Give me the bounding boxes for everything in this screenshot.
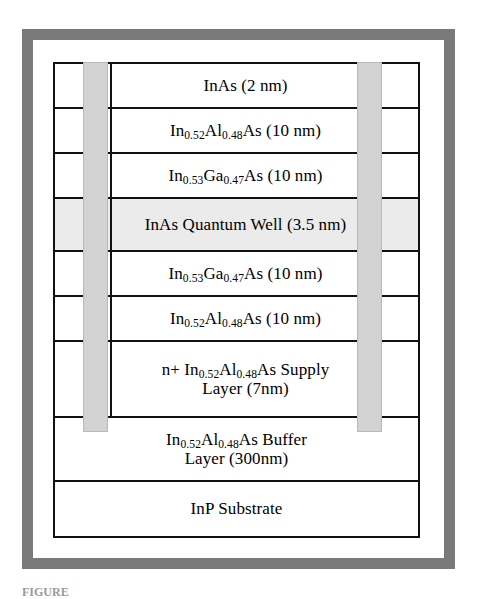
layer-label-ingaas-top: In0.53Ga0.47As (10 nm): [110, 154, 381, 197]
subscript: 0.47: [223, 272, 244, 285]
subscript: 0.47: [223, 174, 244, 187]
layer-text: InAs (2 nm): [203, 76, 287, 95]
layer-text: In0.52Al0.48As (10 nm): [170, 121, 321, 140]
figure-root: InAs (2 nm) In0.52Al0.48As (10 nm) In0.5…: [0, 0, 477, 599]
layer-text: In0.53Ga0.47As (10 nm): [168, 166, 322, 185]
layer-text: In0.53Ga0.47As (10 nm): [168, 264, 322, 283]
layer-text: InP Substrate: [191, 499, 283, 518]
layer-text: In0.52Al0.48As BufferLayer (300nm): [166, 430, 307, 468]
layer-row-substrate: InP Substrate: [55, 482, 418, 536]
layer-text-line2: Layer (300nm): [185, 449, 289, 468]
layer-label-supply-layer: n+ In0.52Al0.48As SupplyLayer (7nm): [110, 342, 381, 416]
layer-text: In0.52Al0.48As (10 nm): [170, 309, 321, 328]
subscript: 0.48: [222, 129, 243, 142]
layer-text: InAs Quantum Well (3.5 nm): [145, 215, 347, 234]
layer-label-inalas-barrier-top: In0.52Al0.48As (10 nm): [110, 109, 381, 152]
layer-label-ingaas-bottom: In0.53Ga0.47As (10 nm): [110, 252, 381, 295]
figure-caption: FIGURE: [22, 585, 69, 599]
right-contact-bar: [357, 62, 382, 432]
layer-label-cap-inas: InAs (2 nm): [110, 64, 381, 107]
subscript: 0.53: [183, 272, 204, 285]
layer-text-line2: Layer (7nm): [202, 379, 289, 398]
subscript: 0.48: [222, 317, 243, 330]
subscript: 0.52: [184, 129, 205, 142]
subscript: 0.53: [183, 174, 204, 187]
layer-text: n+ In0.52Al0.48As SupplyLayer (7nm): [162, 360, 330, 398]
left-contact-bar: [83, 62, 108, 432]
layer-label-quantum-well: InAs Quantum Well (3.5 nm): [110, 199, 381, 250]
subscript: 0.52: [184, 317, 205, 330]
layer-label-substrate: InP Substrate: [55, 482, 418, 536]
layer-label-inalas-barrier-bottom: In0.52Al0.48As (10 nm): [110, 297, 381, 340]
